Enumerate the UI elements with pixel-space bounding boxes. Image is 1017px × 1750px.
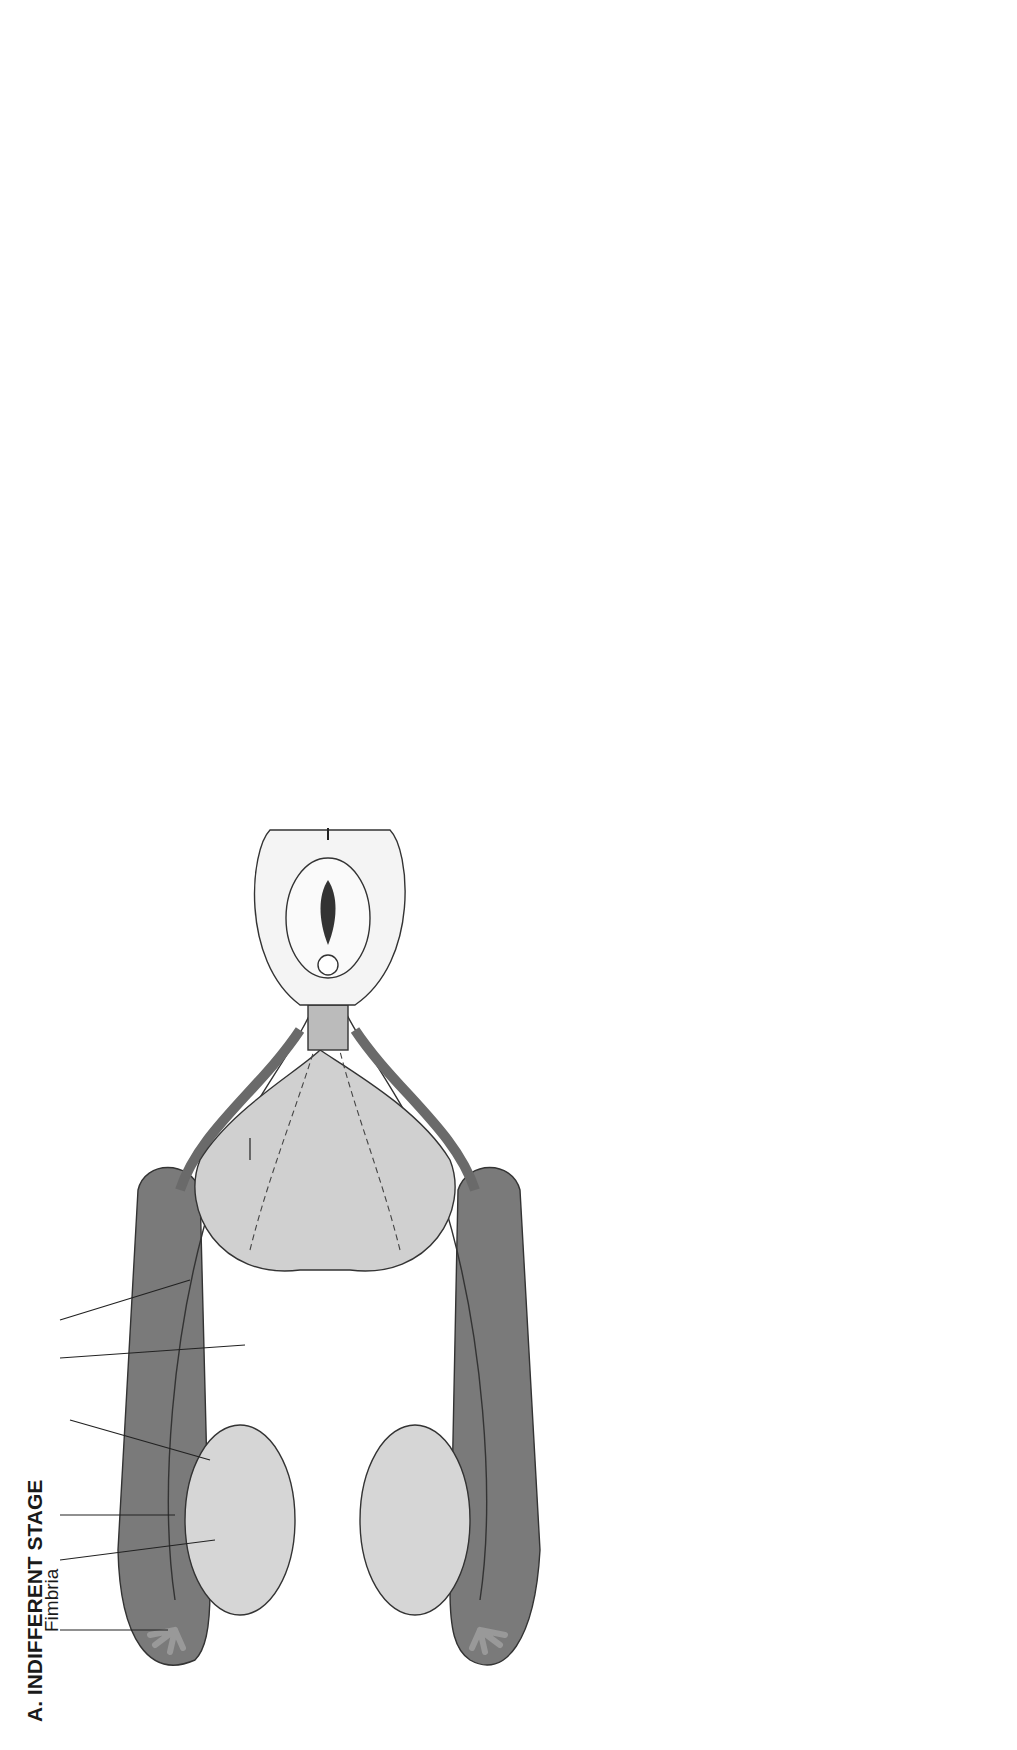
mesonephros-left [118,1168,210,1666]
genital-tubercle [318,955,338,975]
gonad-right [360,1425,470,1615]
urogenital-sinus [308,1005,348,1050]
mesonephros-right [450,1168,540,1666]
panel-indifferent-stage: A. INDIFFERENT STAGE [23,828,540,1722]
gonad-left [185,1425,295,1615]
bladder [195,1050,455,1271]
rotated-page: A. INDIFFERENT STAGE [0,0,1017,1750]
embryology-diagram: A. INDIFFERENT STAGE [0,0,1017,1750]
svg-text:Fimbria: Fimbria [41,1568,62,1632]
label-fimbria: Fimbria [41,1568,62,1632]
